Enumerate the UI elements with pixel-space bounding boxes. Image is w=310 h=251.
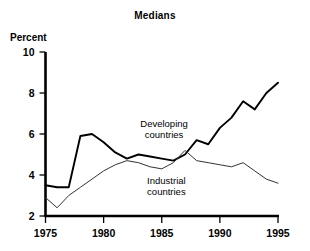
y-tick-label: 4	[29, 169, 35, 181]
chart-figure: Medians Percent 246810 19751980198519901…	[0, 0, 310, 251]
x-tick-labels: 19751980198519901995	[34, 227, 290, 239]
x-tick-label: 1980	[92, 227, 116, 239]
plot-area: 246810 19751980198519901995 Developingco…	[0, 0, 310, 251]
x-tick-label: 1985	[150, 227, 174, 239]
x-tick-label: 1990	[208, 227, 232, 239]
x-tick-label: 1975	[34, 227, 58, 239]
series-annotation: Industrialcountries	[147, 175, 186, 197]
y-tick-label: 8	[29, 87, 35, 99]
y-tick-label: 2	[29, 210, 35, 222]
y-axis-group: 246810	[23, 46, 46, 222]
y-tick-label: 6	[29, 128, 35, 140]
y-tick-label: 10	[23, 46, 35, 58]
x-tick-label: 1995	[266, 227, 290, 239]
y-tick-labels: 246810	[23, 46, 35, 222]
x-axis-group: 19751980198519901995	[34, 216, 290, 239]
series-annotation: Developingcountries	[140, 118, 188, 140]
